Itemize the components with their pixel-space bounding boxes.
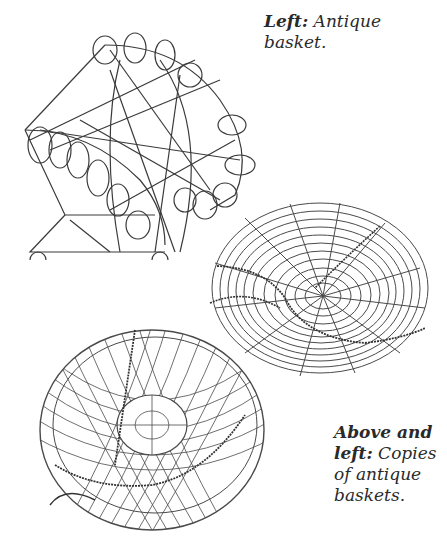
caption-label: Left: xyxy=(264,11,308,31)
caption-label-line2: left: xyxy=(334,443,373,463)
caption-text-line3: of antique xyxy=(334,464,436,485)
caption-antique-basket: Left: Antique basket. xyxy=(264,11,447,53)
caption-label-line1: Above and xyxy=(334,422,432,442)
figure-mesh-basket xyxy=(35,325,270,535)
caption-text-line2: Copies xyxy=(373,443,437,463)
caption-text-line4: baskets. xyxy=(334,485,436,506)
caption-copies: Above and left: Copies of antique basket… xyxy=(334,422,436,506)
